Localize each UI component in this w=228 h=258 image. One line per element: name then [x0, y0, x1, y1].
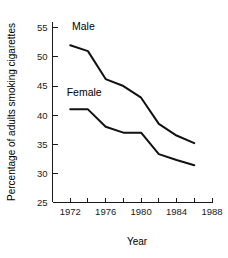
- y-tick-label-50: 50: [37, 51, 48, 62]
- x-axis-tick-labels: 19721976198019841988: [60, 206, 223, 217]
- line-chart-svg: 25303540455055 19721976198019841988 Male…: [0, 0, 228, 258]
- y-axis-title: Percentage of adults smoking cigarettes: [6, 23, 17, 201]
- x-tick-label-1988: 1988: [201, 206, 222, 217]
- y-tick-label-40: 40: [37, 110, 48, 121]
- y-axis-ticks: [53, 28, 58, 203]
- series-line-female: [70, 109, 194, 165]
- x-tick-label-1980: 1980: [131, 206, 152, 217]
- y-axis-tick-labels: 25303540455055: [37, 22, 48, 208]
- y-tick-label-25: 25: [37, 197, 48, 208]
- series-label-female: Female: [67, 86, 102, 98]
- series-lines-group: [70, 45, 194, 165]
- y-tick-label-35: 35: [37, 139, 48, 150]
- y-tick-label-55: 55: [37, 22, 48, 33]
- axes-group: [53, 22, 213, 203]
- y-tick-label-30: 30: [37, 168, 48, 179]
- series-inline-labels: MaleFemale: [67, 20, 102, 98]
- x-axis-title: Year: [127, 236, 148, 247]
- x-tick-label-1984: 1984: [166, 206, 187, 217]
- x-axis-ticks: [70, 198, 212, 203]
- chart-container: 25303540455055 19721976198019841988 Male…: [0, 0, 228, 258]
- series-label-male: Male: [72, 20, 95, 32]
- x-tick-label-1972: 1972: [60, 206, 81, 217]
- x-tick-label-1976: 1976: [95, 206, 116, 217]
- y-tick-label-45: 45: [37, 80, 48, 91]
